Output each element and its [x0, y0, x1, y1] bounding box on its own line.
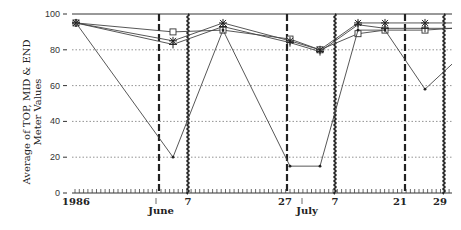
- data-series: [72, 19, 452, 168]
- wavy-date-marker: [187, 14, 189, 194]
- x-tick-label: 21: [393, 196, 407, 207]
- y-tick-label: 80: [50, 45, 60, 55]
- dot-marker: [319, 165, 322, 168]
- x-tick-label: 29: [433, 196, 447, 207]
- y-tick-label: 20: [50, 152, 60, 162]
- y-axis: 020406080100: [45, 9, 67, 198]
- y-title-line: Meter Values: [32, 78, 43, 145]
- plus-marker: [169, 40, 177, 48]
- series-line-plus: [76, 23, 452, 52]
- line-chart: 020406080100 1986June727July72129 Averag…: [0, 0, 461, 230]
- x-tick-label: 1986: [62, 196, 90, 207]
- y-axis-title: Average of TOP, MID & ENDMeter Values: [21, 40, 43, 186]
- y-tick-label: 40: [50, 116, 60, 126]
- wavy-date-marker: [443, 14, 445, 194]
- x-axis: 1986June727July72129: [62, 189, 452, 216]
- dot-marker: [424, 88, 427, 91]
- x-tick-label: June: [147, 205, 174, 216]
- dot-marker: [357, 29, 360, 32]
- vertical-date-markers: [159, 14, 445, 194]
- y-title-line: Average of TOP, MID & END: [21, 40, 32, 186]
- dot-marker: [222, 29, 225, 32]
- x-tick-label: 7: [332, 196, 339, 207]
- x-tick-label: July: [295, 205, 319, 216]
- dot-marker: [172, 156, 175, 159]
- plus-marker: [354, 21, 362, 29]
- y-tick-label: 100: [45, 9, 60, 19]
- dot-marker: [384, 29, 387, 32]
- y-tick-label: 60: [50, 81, 60, 91]
- series-line-dot: [76, 23, 452, 166]
- y-tick-label: 0: [55, 188, 60, 198]
- dot-marker: [289, 165, 292, 168]
- x-tick-label: 7: [185, 196, 192, 207]
- square-marker: [170, 29, 176, 35]
- x-tick-label: 27: [278, 196, 292, 207]
